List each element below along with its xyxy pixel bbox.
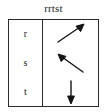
arrow-table: r s t [8,19,99,107]
arrow-up-right-icon [54,22,88,46]
table-row [43,20,98,49]
arrow-down-icon [54,79,88,105]
row-label-r: r [24,29,27,39]
figure-title: rrtst [0,2,107,15]
row-label-t: t [24,87,27,97]
table-column-labels: r s t [9,20,43,106]
table-row [43,49,98,78]
table-grid: r s t [9,20,98,106]
table-row: r [9,20,42,49]
table-column-arrows [43,20,98,106]
figure-root: rrtst r s t [0,0,107,112]
table-row [43,77,98,106]
row-label-s: s [24,58,28,68]
arrow-up-left-icon [54,51,88,75]
table-row: s [9,49,42,78]
table-row: t [9,77,42,106]
